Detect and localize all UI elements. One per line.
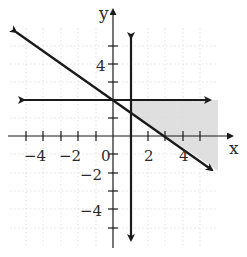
- x-tick-label: 4: [179, 147, 189, 165]
- y-tick-label: −2: [80, 166, 102, 184]
- x-tick-label: 2: [144, 147, 154, 165]
- x-axis-label: x: [229, 138, 239, 158]
- x-tick-label: −2: [59, 147, 81, 165]
- x-tick-label: −4: [24, 147, 46, 165]
- inequality-graph: x y −4 −2 0 2 4 4 −2 −4: [0, 0, 247, 257]
- y-axis-label: y: [98, 3, 109, 23]
- y-tick-label: −4: [80, 202, 102, 220]
- y-tick-label: 4: [96, 57, 106, 75]
- x-tick-label: 0: [101, 147, 111, 165]
